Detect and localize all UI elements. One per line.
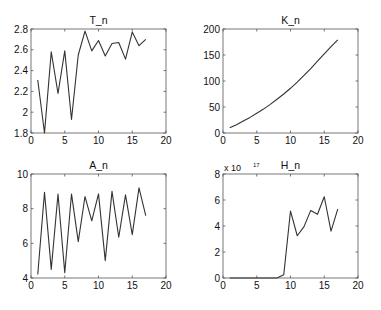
x-tick-label: 10: [285, 280, 297, 291]
figure-canvas: 051015201.822.22.42.62.8T_n 051015200501…: [0, 0, 381, 310]
x-tick-label: 15: [319, 280, 331, 291]
x-tick-label: 0: [28, 135, 34, 146]
axes-frame: [31, 29, 166, 133]
plot-t-n: 051015201.822.22.42.62.8T_n: [14, 14, 172, 146]
y-tick-label: 1.8: [14, 128, 28, 139]
x-tick-label: 5: [62, 280, 68, 291]
x-tick-label: 20: [160, 135, 172, 146]
y-tick-label: 4: [214, 221, 220, 232]
plot-k-n: 05101520050100150200K_n: [203, 14, 364, 146]
chart-title: T_n: [89, 14, 107, 26]
x-tick-label: 5: [62, 135, 68, 146]
y-tick-label: 0: [214, 128, 220, 139]
y-tick-label: 2.8: [14, 24, 28, 35]
x-tick-label: 15: [127, 135, 139, 146]
x-tick-label: 0: [220, 280, 226, 291]
x-tick-label: 20: [160, 280, 172, 291]
chart-title: K_n: [281, 14, 300, 26]
axes-frame: [223, 174, 358, 278]
y-tick-label: 2: [22, 107, 28, 118]
y-tick-label: 6: [214, 195, 220, 206]
x-tick-label: 10: [285, 135, 297, 146]
y-tick-label: 10: [17, 169, 29, 180]
axes-frame: [31, 174, 166, 278]
y-exponent-label: x 10: [224, 163, 241, 173]
x-tick-label: 0: [220, 135, 226, 146]
y-tick-label: 50: [209, 102, 221, 113]
y-tick-label: 200: [203, 24, 220, 35]
y-tick-label: 8: [214, 169, 220, 180]
x-tick-label: 15: [319, 135, 331, 146]
y-tick-label: 2.2: [14, 86, 28, 97]
x-tick-label: 20: [352, 280, 364, 291]
y-exponent-power: 17: [253, 162, 260, 168]
y-tick-label: 2.6: [14, 44, 28, 55]
plot-a-n: 0510152046810A_n: [17, 159, 172, 291]
x-tick-label: 15: [127, 280, 139, 291]
x-tick-label: 0: [28, 280, 34, 291]
x-tick-label: 5: [254, 280, 260, 291]
y-tick-label: 0: [214, 273, 220, 284]
y-tick-label: 150: [203, 50, 220, 61]
y-tick-label: 100: [203, 76, 220, 87]
x-tick-label: 20: [352, 135, 364, 146]
chart-title: H_n: [281, 159, 300, 171]
chart-title: A_n: [89, 159, 108, 171]
y-tick-label: 2.4: [14, 65, 28, 76]
y-tick-label: 4: [22, 273, 28, 284]
x-tick-label: 5: [254, 135, 260, 146]
x-tick-label: 10: [93, 135, 105, 146]
axes-frame: [223, 29, 358, 133]
y-tick-label: 8: [22, 203, 28, 214]
plot-h-n: 0510152002468H_nx 1017: [214, 159, 364, 291]
y-tick-label: 6: [22, 238, 28, 249]
y-tick-label: 2: [214, 247, 220, 258]
x-tick-label: 10: [93, 280, 105, 291]
